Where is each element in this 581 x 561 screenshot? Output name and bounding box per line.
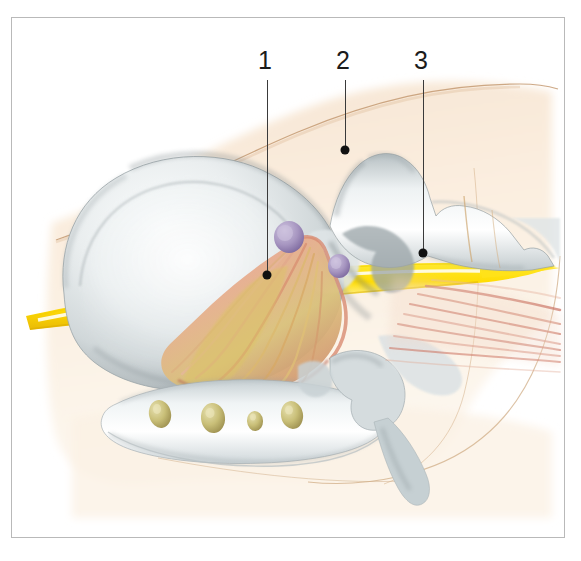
anatomical-illustration: [12, 18, 564, 537]
callout-2-leader-line: [345, 80, 346, 150]
callout-1-leader-dot: [263, 271, 272, 280]
callout-2-leader-dot: [341, 146, 350, 155]
figure-page: 1 2 3: [0, 0, 581, 561]
callout-3-number: 3: [414, 48, 428, 73]
callout-2-number: 2: [336, 48, 350, 73]
callout-3-leader-dot: [419, 249, 428, 258]
callout-1-leader-line: [267, 80, 268, 275]
callout-1-number: 1: [258, 48, 272, 73]
callout-3-leader-line: [423, 80, 424, 253]
